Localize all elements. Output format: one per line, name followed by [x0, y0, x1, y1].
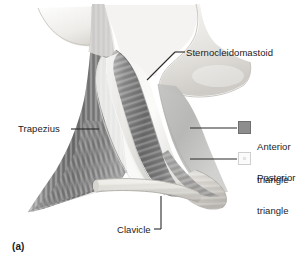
label-posterior-triangle-line2: triangle [257, 205, 295, 216]
label-clavicle: Clavicle [117, 224, 151, 235]
legend-swatch-posterior-triangle [238, 152, 251, 165]
label-trapezius: Trapezius [18, 123, 60, 134]
label-sternocleidomastoid: Sternocleidomastoid [186, 47, 273, 58]
label-posterior-triangle: Posterior triangle [257, 150, 295, 238]
label-posterior-triangle-line1: Posterior [257, 172, 295, 183]
panel-letter-label: (a) [12, 241, 24, 252]
anatomy-figure-panel: Sternocleidomastoid Trapezius Clavicle A… [0, 0, 307, 264]
legend-swatch-anterior-triangle [238, 121, 251, 134]
